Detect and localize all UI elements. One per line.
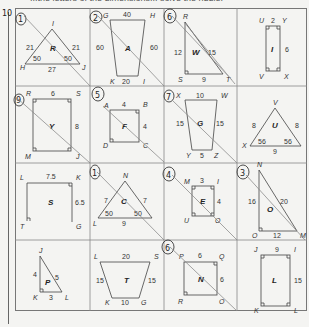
svg-text:8: 8: [75, 123, 79, 130]
svg-text:I: I: [143, 78, 145, 85]
svg-text:4: 4: [143, 123, 147, 130]
svg-text:G: G: [76, 223, 82, 230]
svg-text:I: I: [294, 246, 296, 253]
svg-text:21: 21: [26, 44, 34, 51]
svg-text:K: K: [254, 307, 259, 314]
svg-text:B: B: [143, 101, 148, 108]
svg-text:J: J: [38, 247, 43, 254]
svg-text:T: T: [124, 276, 130, 285]
svg-text:Y: Y: [282, 17, 288, 24]
cell-12-labels: 3 N 16 20 O 12 M O: [240, 161, 306, 239]
svg-text:6: 6: [167, 13, 172, 22]
svg-text:20: 20: [122, 78, 130, 85]
svg-text:15: 15: [216, 120, 224, 127]
cell-9-labels: L 7.5 K 6.5 T G S: [20, 173, 85, 230]
svg-text:6: 6: [165, 244, 170, 253]
svg-text:U: U: [184, 217, 190, 224]
svg-text:7: 7: [143, 197, 147, 204]
svg-text:H: H: [20, 64, 26, 71]
svg-text:9: 9: [202, 76, 206, 83]
cell-15-labels: 6 P 6 Q 6 R O N: [165, 244, 225, 305]
svg-text:2: 2: [271, 17, 275, 24]
svg-text:M: M: [184, 178, 190, 185]
svg-text:7: 7: [166, 93, 171, 102]
cell-8-labels: V 8 8 56 56 X 9 U: [241, 99, 299, 155]
cell-15: [162, 240, 217, 295]
cell-14-labels: L 20 S 15 15 K 10 G T: [94, 253, 159, 306]
svg-text:5: 5: [95, 91, 100, 100]
svg-text:20: 20: [280, 198, 288, 205]
svg-text:X: X: [283, 73, 289, 80]
cell-7: [164, 90, 217, 150]
svg-text:L: L: [294, 307, 298, 314]
svg-text:40: 40: [123, 11, 131, 18]
svg-text:V: V: [273, 99, 279, 106]
svg-text:N: N: [257, 161, 263, 168]
svg-text:7.5: 7.5: [46, 173, 56, 180]
svg-text:R: R: [26, 90, 31, 97]
svg-text:G: G: [141, 299, 147, 306]
svg-text:I: I: [217, 178, 219, 185]
svg-text:56: 56: [258, 138, 266, 145]
svg-text:T: T: [20, 223, 25, 230]
svg-text:5: 5: [55, 274, 59, 281]
svg-text:N: N: [123, 172, 129, 179]
svg-text:O: O: [267, 205, 274, 214]
svg-text:10: 10: [121, 299, 129, 306]
svg-text:S: S: [178, 76, 183, 83]
svg-text:56: 56: [284, 138, 292, 145]
svg-text:4: 4: [122, 101, 126, 108]
svg-text:S: S: [48, 198, 54, 207]
cell-3: [164, 9, 223, 74]
svg-text:E: E: [200, 197, 206, 206]
svg-text:20: 20: [122, 253, 130, 260]
svg-text:Q: Q: [219, 253, 225, 261]
svg-text:15: 15: [176, 120, 184, 127]
svg-text:6: 6: [198, 252, 202, 259]
cell-7-labels: 7 X 10 W 15 15 Y 5 Z G: [166, 92, 229, 159]
svg-text:D: D: [103, 142, 108, 149]
cell-4-labels: U 2 Y 6 V X I: [259, 17, 289, 80]
svg-text:M: M: [25, 153, 31, 160]
svg-text:L: L: [20, 174, 24, 181]
svg-text:4: 4: [166, 171, 171, 180]
svg-text:8: 8: [295, 122, 299, 129]
svg-text:2: 2: [93, 14, 98, 23]
cell-3-labels: 6 R 12 15 S 9 T W: [167, 13, 231, 83]
svg-text:3: 3: [200, 177, 204, 184]
svg-text:50: 50: [105, 210, 113, 217]
svg-text:L: L: [93, 220, 97, 227]
svg-text:9: 9: [122, 220, 126, 227]
svg-text:15: 15: [96, 277, 104, 284]
svg-text:P: P: [45, 278, 51, 287]
svg-text:U: U: [259, 17, 265, 24]
svg-text:X: X: [175, 92, 181, 99]
svg-text:4: 4: [33, 271, 37, 278]
svg-text:60: 60: [150, 44, 158, 51]
svg-text:T: T: [226, 76, 231, 83]
svg-text:L: L: [65, 294, 69, 301]
svg-text:12: 12: [174, 49, 182, 56]
svg-text:O: O: [252, 232, 258, 239]
svg-text:12: 12: [273, 232, 281, 239]
svg-text:10: 10: [196, 92, 204, 99]
svg-text:Z: Z: [213, 152, 219, 159]
svg-text:6: 6: [51, 90, 55, 97]
page-number-handwritten: 10: [2, 9, 12, 18]
svg-text:K: K: [33, 294, 38, 301]
svg-text:7: 7: [104, 197, 108, 204]
svg-text:I: I: [52, 20, 54, 27]
svg-text:5: 5: [200, 152, 204, 159]
svg-text:L: L: [272, 276, 277, 285]
cell-2-labels: 2 G 40 H 60 60 K 20 I A: [93, 11, 158, 85]
svg-text:K: K: [105, 299, 110, 306]
svg-text:15: 15: [148, 277, 156, 284]
worksheet-figures: 10 1 I H J 21 21 50 50 27 R 2 G 40 H 60 …: [0, 0, 309, 327]
cell-16-labels: J 9 I 15 K L L: [253, 246, 302, 314]
svg-text:L: L: [94, 253, 98, 260]
svg-text:A: A: [103, 102, 109, 109]
svg-text:W: W: [221, 92, 229, 99]
svg-text:3: 3: [49, 294, 53, 301]
svg-text:X: X: [241, 142, 247, 149]
svg-text:6: 6: [285, 46, 289, 53]
